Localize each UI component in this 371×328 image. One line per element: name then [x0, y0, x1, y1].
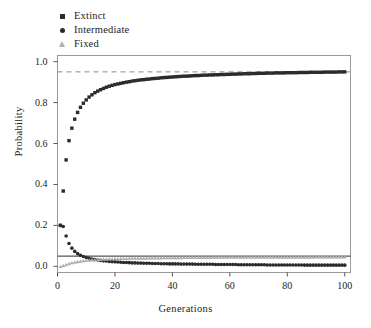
data-point: [64, 158, 67, 161]
x-tick-label: 20: [95, 280, 135, 291]
y-tick-label: 0.2: [14, 219, 48, 230]
data-point: [64, 234, 68, 238]
x-axis-title: Generations: [0, 303, 371, 314]
data-point: [67, 139, 70, 142]
data-point: [343, 263, 347, 267]
y-tick-label: 0.4: [14, 178, 48, 189]
data-point: [76, 111, 79, 114]
data-point: [70, 126, 73, 129]
x-tick-label: 0: [38, 280, 78, 291]
y-tick-label: 1.0: [14, 56, 48, 67]
data-point: [62, 189, 65, 192]
y-tick-label: 0.8: [14, 97, 48, 108]
data-point: [67, 242, 71, 246]
data-point: [73, 117, 76, 120]
figure-container: Extinct Intermediate Fixed Probability G…: [0, 0, 371, 328]
data-point: [343, 255, 347, 258]
data-point: [79, 106, 82, 109]
data-point: [343, 70, 346, 73]
y-tick-label: 0.6: [14, 138, 48, 149]
series-extinct: [59, 70, 347, 227]
x-tick-label: 100: [325, 280, 365, 291]
data-point: [73, 260, 77, 263]
data-point: [73, 250, 77, 254]
data-point: [70, 261, 74, 264]
x-tick-label: 40: [152, 280, 192, 291]
x-tick-label: 80: [267, 280, 307, 291]
data-point: [82, 101, 85, 104]
y-tick-label: 0.0: [14, 260, 48, 271]
x-tick-label: 60: [210, 280, 250, 291]
data-point: [70, 246, 74, 250]
data-point: [61, 225, 65, 229]
